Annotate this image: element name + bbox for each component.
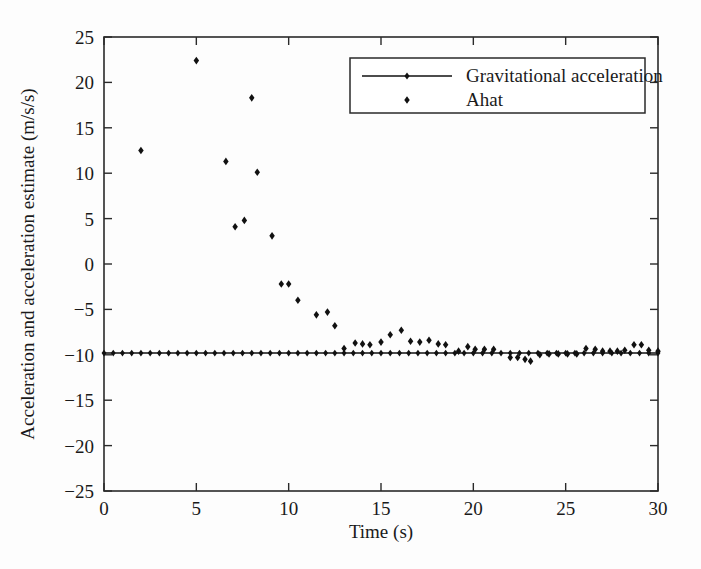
data-point-marker [203,350,208,357]
data-point-marker [399,326,404,334]
x-tick-label: 25 [556,498,575,519]
x-tick-label: 5 [192,498,202,519]
data-point-marker [295,297,300,305]
data-point-marker [388,350,393,357]
data-point-marker [378,338,383,346]
x-tick-label: 15 [372,498,391,519]
data-point-marker [499,350,504,357]
data-point-marker [255,168,260,176]
data-point-marker [417,338,422,346]
data-point-marker [325,308,330,316]
legend-label-ahat: Ahat [466,89,504,110]
y-tick-label: −10 [64,345,94,366]
x-axis-title: Time (s) [349,521,413,543]
data-point-marker [129,350,134,357]
data-point-marker [379,350,384,357]
data-point-marker [408,337,413,345]
data-point-marker [279,280,284,288]
data-point-marker [332,350,337,357]
data-point-marker [631,341,636,349]
data-point-marker [223,158,228,166]
data-point-marker [148,350,153,357]
data-point-marker [352,339,357,347]
data-point-marker [314,311,319,319]
data-point-marker [269,232,274,240]
scatter-chart: 2520151050−5−10−15−20−25 051015202530 Ti… [0,0,701,569]
x-axis-tick-labels: 051015202530 [99,498,667,519]
data-point-marker [249,350,254,357]
data-point-marker [426,336,431,344]
figure-container: 2520151050−5−10−15−20−25 051015202530 Ti… [0,0,701,569]
data-point-marker [415,350,420,357]
y-tick-label: −25 [64,481,94,502]
data-point-marker [341,345,346,353]
data-point-marker [522,356,527,364]
data-point-marker [286,280,291,288]
data-point-marker [465,343,470,351]
y-tick-label: −5 [74,299,94,320]
data-point-marker [425,350,430,357]
y-tick-label: −15 [64,390,94,411]
data-point-marker [387,331,392,339]
data-point-marker [194,350,199,357]
y-tick-label: −20 [64,436,94,457]
data-point-marker [655,347,660,355]
data-point-marker [212,350,217,357]
data-point-marker [242,217,247,225]
data-point-marker [443,341,448,349]
y-tick-label: 25 [75,27,94,48]
data-point-marker [138,147,143,155]
data-point-marker [166,350,171,357]
x-tick-label: 10 [279,498,298,519]
y-tick-label: 5 [85,209,95,230]
data-point-marker [360,350,365,357]
data-point-marker [249,94,254,102]
data-point-marker [332,322,337,330]
x-tick-label: 0 [99,498,109,519]
data-point-marker [323,350,328,357]
data-point-marker [443,350,448,357]
data-point-marker [259,350,264,357]
data-point-marker [277,350,282,357]
data-point-marker [295,350,300,357]
y-tick-label: 15 [75,118,94,139]
data-point-marker [314,350,319,357]
data-point-marker [351,350,356,357]
data-point-marker [462,350,467,357]
y-tick-label: 20 [75,72,94,93]
x-tick-label: 30 [649,498,668,519]
data-point-marker [222,350,227,357]
data-point-marker [286,350,291,357]
data-point-marker [231,350,236,357]
data-point-marker [268,350,273,357]
data-point-marker [120,350,125,357]
x-tick-label: 20 [464,498,483,519]
data-point-marker [526,350,531,357]
data-point-marker [369,350,374,357]
data-point-marker [434,350,439,357]
data-point-marker [360,340,365,348]
data-point-marker [508,354,513,362]
data-point-marker [175,350,180,357]
data-point-marker [367,341,372,349]
data-point-marker [232,223,237,231]
data-point-marker [600,347,605,355]
y-tick-label: 10 [75,163,94,184]
y-axis-tick-labels: 2520151050−5−10−15−20−25 [64,27,94,502]
data-point-marker [138,350,143,357]
data-point-marker [436,340,441,348]
data-point-marker [628,350,633,357]
data-point-marker [639,341,644,349]
data-point-marker [528,357,533,365]
y-tick-label: 0 [85,254,95,275]
legend-label-gravitational-acceleration: Gravitational acceleration [466,65,663,86]
data-point-marker [397,350,402,357]
y-axis-title: Acceleration and acceleration estimate (… [17,88,39,439]
data-point-marker [185,350,190,357]
data-point-marker [157,350,162,357]
chart-legend[interactable]: Gravitational acceleration Ahat [350,58,663,113]
data-point-marker [305,350,310,357]
data-point-marker [406,350,411,357]
data-point-marker [194,57,199,65]
data-point-marker [637,350,642,357]
